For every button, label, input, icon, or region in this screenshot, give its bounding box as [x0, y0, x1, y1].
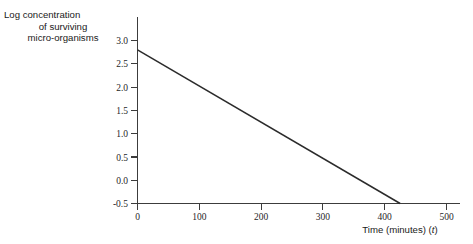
x-axis-title-paren-close: ) — [434, 224, 437, 235]
y-tick-label-0-0: 0.0 — [116, 176, 128, 186]
y-tick-label-1-0: 1.0 — [116, 129, 128, 139]
x-tick-label-400: 400 — [378, 212, 393, 222]
y-axis-title-line-3: micro-organisms — [4, 32, 122, 44]
x-axis-tick-labels: 0 100 200 300 400 500 — [135, 212, 454, 222]
chart-figure: 3.0 2.5 2.0 1.5 1.0 0.5 0.0 -0.5 0 100 2… — [0, 0, 473, 244]
y-axis-ticks — [131, 41, 138, 204]
x-tick-label-300: 300 — [316, 212, 331, 222]
data-line-series-0 — [138, 50, 401, 204]
x-tick-label-0: 0 — [135, 212, 140, 222]
x-axis-title-text: Time (minutes) — [362, 224, 428, 235]
y-tick-label-1-5: 1.5 — [116, 106, 128, 116]
y-tick-label-2-0: 2.0 — [116, 83, 128, 93]
y-tick-label-2-5: 2.5 — [116, 59, 128, 69]
x-tick-label-200: 200 — [254, 212, 269, 222]
x-axis-title: Time (minutes) (t) — [330, 224, 470, 235]
y-axis-tick-labels: 3.0 2.5 2.0 1.5 1.0 0.5 0.0 -0.5 — [113, 36, 128, 209]
x-tick-label-100: 100 — [192, 212, 207, 222]
y-tick-label-neg-0-5: -0.5 — [113, 199, 128, 209]
y-axis-title: Log concentration of surviving micro-org… — [4, 9, 122, 44]
x-tick-label-500: 500 — [439, 212, 454, 222]
y-axis-title-line-1: Log concentration — [4, 9, 122, 21]
x-axis-ticks — [138, 204, 447, 211]
y-tick-label-0-5: 0.5 — [116, 153, 128, 163]
y-axis-title-line-2: of surviving — [4, 21, 122, 33]
